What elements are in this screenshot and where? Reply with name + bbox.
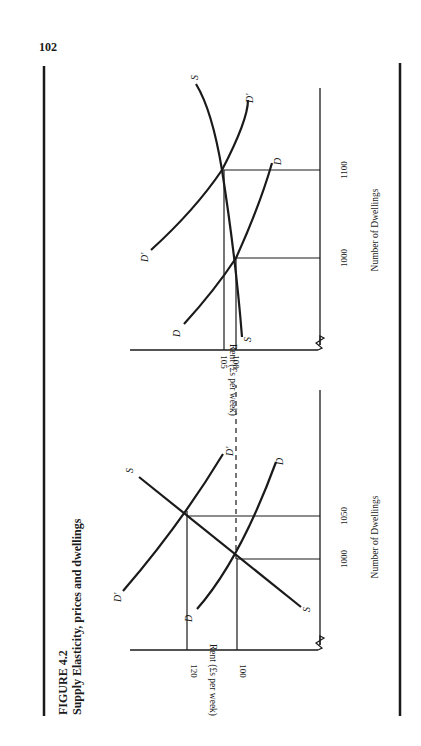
panel-a-d-label-low: D	[183, 614, 194, 623]
panel-a: S S D D D' D' 120 100 1000 1050 Rent (£s…	[112, 385, 380, 716]
panel-a-xtick-1050: 1050	[339, 507, 349, 526]
panel-a-s-label-high: S	[124, 468, 135, 473]
panel-b-d-label-high: D	[272, 157, 283, 166]
panel-a-demand-shifted-curve	[123, 454, 223, 591]
panel-b-dprime-label-low: D'	[139, 252, 150, 263]
panel-b-d-label-low: D	[171, 329, 182, 338]
panel-b-dprime-label-high: D'	[244, 93, 255, 104]
figure-label: FIGURE 4.2	[56, 650, 70, 715]
panel-b-xtick-1000: 1000	[339, 249, 349, 268]
panel-b-ytick-105: 105	[219, 355, 229, 369]
panel-b-s-label-low: S	[242, 337, 253, 342]
figure-canvas: FIGURE 4.2 Supply Elasticity, prices and…	[0, 0, 421, 746]
panel-b-supply-curve	[196, 84, 242, 337]
panel-a-ylabel: Rent (£s per week)	[207, 644, 218, 716]
panel-a-dprime-label-low: D'	[112, 592, 123, 603]
panel-b-xlabel: Number of Dwellings	[370, 188, 380, 271]
panel-a-s-label-low: S	[301, 607, 312, 612]
panel-a-xlabel: Number of Dwellings	[370, 495, 380, 578]
panel-b-axis-break	[316, 336, 324, 350]
panel-b-s-label-high: S	[189, 75, 200, 80]
panel-a-d-label-high: D	[274, 457, 285, 466]
panel-b-demand-shifted-curve	[151, 100, 248, 250]
panel-a-axis-break	[316, 636, 324, 650]
panel-a-xtick-1000: 1000	[339, 550, 349, 569]
panel-b-xtick-1100: 1100	[339, 161, 349, 179]
panel-b: S S D D D' D' 105 100 1000 1100 Rent (£s…	[130, 75, 380, 416]
figure-title: Supply Elasticity, prices and dwellings	[70, 518, 84, 715]
panel-a-ytick-120: 120	[189, 664, 199, 678]
panel-b-ylabel: Rent (£s per week)	[227, 344, 238, 416]
panel-a-ytick-100: 100	[238, 664, 248, 678]
panel-a-dprime-label-high: D'	[224, 446, 235, 457]
panel-b-demand-curve	[184, 163, 272, 324]
